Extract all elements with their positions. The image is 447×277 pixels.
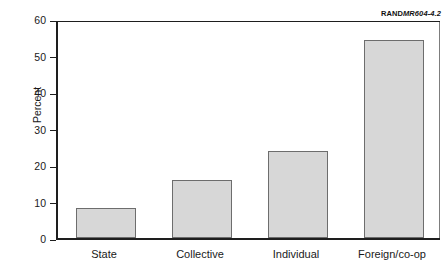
x-axis-label-individual: Individual <box>248 248 344 260</box>
figure-id-number: MR604-4.2 <box>403 9 441 18</box>
y-axis-tick-label: 50 <box>16 52 46 63</box>
plot-right-edge <box>439 22 440 238</box>
y-axis-tick-label: 40 <box>16 88 46 99</box>
x-axis-label-state: State <box>56 248 152 260</box>
bar-collective <box>172 180 232 238</box>
bar-individual <box>268 151 328 238</box>
y-axis-tick-label: 30 <box>16 125 46 136</box>
plot-area <box>56 21 440 240</box>
y-axis-tick-label: 10 <box>16 198 46 209</box>
bar-foreign-co-op <box>364 40 424 238</box>
x-axis-label-foreign-co-op: Foreign/co-op <box>344 248 440 260</box>
bar-state <box>76 208 136 238</box>
x-axis-label-collective: Collective <box>152 248 248 260</box>
y-axis-tick-label: 60 <box>16 15 46 26</box>
y-axis-tick-label: 20 <box>16 161 46 172</box>
y-axis-tick-label: 0 <box>16 234 46 245</box>
figure-container: RANDMR604-4.2 Percent 0102030405060 Stat… <box>0 0 447 277</box>
figure-id-label: RANDMR604-4.2 <box>381 9 441 18</box>
figure-id-prefix: RAND <box>381 9 403 18</box>
